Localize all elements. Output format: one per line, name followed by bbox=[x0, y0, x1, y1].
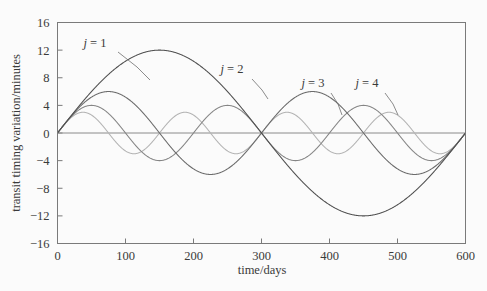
x-tick-label: 500 bbox=[388, 249, 407, 263]
y-tick-label: −16 bbox=[30, 237, 50, 251]
x-axis-title: time/days bbox=[238, 263, 287, 277]
y-tick-label: 12 bbox=[37, 44, 50, 58]
x-tick-label: 0 bbox=[54, 249, 60, 263]
y-tick-label: −4 bbox=[36, 154, 50, 168]
x-tick-label: 200 bbox=[184, 249, 203, 263]
y-axis-title: transit timing variation/minutes bbox=[9, 54, 23, 212]
y-tick-label: 0 bbox=[43, 127, 49, 141]
series-label-j-2: j = 2 bbox=[218, 62, 243, 76]
chart-figure: 1612840−4−8−12−16 0100200300400500600 j … bbox=[0, 0, 487, 291]
y-tick-label: −8 bbox=[36, 182, 49, 196]
figure-background bbox=[0, 0, 487, 291]
x-tick-label: 400 bbox=[320, 249, 339, 263]
x-tick-label: 300 bbox=[252, 249, 271, 263]
chart-svg: 1612840−4−8−12−16 0100200300400500600 j … bbox=[0, 0, 487, 291]
x-tick-label: 100 bbox=[116, 249, 135, 263]
series-label-j-4: j = 4 bbox=[353, 76, 379, 90]
y-tick-label: 4 bbox=[43, 99, 50, 113]
x-tick-label: 600 bbox=[456, 249, 475, 263]
series-label-j-1: j = 1 bbox=[81, 36, 106, 50]
y-tick-label: −12 bbox=[30, 209, 50, 223]
series-label-j-3: j = 3 bbox=[299, 76, 324, 90]
y-tick-label: 16 bbox=[37, 16, 50, 30]
y-tick-label: 8 bbox=[43, 71, 49, 85]
